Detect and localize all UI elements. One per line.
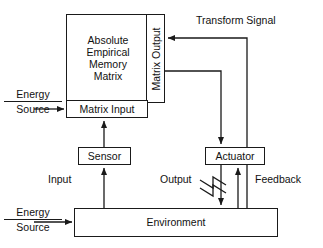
block-memory-matrix-label: Absolute Empirical Memory Matrix [70,18,146,98]
block-sensor[interactable]: Sensor [78,147,131,165]
energy-source-1-line2: Source [4,103,62,115]
block-matrix-output-label: Matrix Output [146,14,165,103]
energy-source-2-line2: Source [4,221,62,233]
label-feedback: Feedback [255,173,301,185]
matrix-line-4: Matrix [94,70,123,82]
matrix-line-1: Absolute [88,34,129,46]
matrix-line-3: Memory [89,58,127,70]
label-input: Input [48,173,71,185]
energy-source-1-line1: Energy [4,88,62,100]
block-environment[interactable]: Environment [74,208,278,237]
diagram-canvas: Absolute Empirical Memory Matrix Matrix … [0,0,323,248]
energy-source-2-line1: Energy [4,206,62,218]
wire-matrix-output-to-actuator [165,71,221,144]
label-output: Output [160,173,192,185]
energy-source-matrix: Energy Source [4,88,62,115]
label-transform-signal: Transform Signal [196,14,276,26]
matrix-line-2: Empirical [86,46,129,58]
matrix-output-text: Matrix Output [150,27,162,90]
block-matrix-input[interactable]: Matrix Input [66,100,148,118]
block-actuator[interactable]: Actuator [205,147,265,165]
energy-source-environment: Energy Source [4,206,62,233]
zigzag-icon [200,177,226,196]
